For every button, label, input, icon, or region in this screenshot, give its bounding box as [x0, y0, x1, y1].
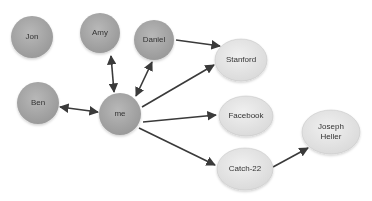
edge-me-daniel	[136, 62, 152, 96]
node-stanford[interactable]: Stanford	[215, 39, 267, 81]
node-stanford-label: Stanford	[226, 55, 256, 64]
node-daniel-label: Daniel	[143, 35, 166, 44]
diagram-canvas: Jon Amy Daniel Ben me Stanford Facebook	[0, 0, 372, 201]
node-joseph-heller-label-line2: Heller	[321, 132, 342, 141]
node-jon-label: Jon	[26, 32, 39, 41]
edge-daniel-stanford	[176, 40, 220, 46]
node-facebook[interactable]: Facebook	[219, 96, 273, 136]
node-jon[interactable]: Jon	[11, 16, 53, 58]
node-amy-label: Amy	[92, 28, 108, 37]
social-graph-diagram: Jon Amy Daniel Ben me Stanford Facebook	[0, 0, 372, 201]
node-daniel[interactable]: Daniel	[134, 20, 174, 60]
node-joseph-heller-label-line1: Joseph	[318, 122, 344, 131]
node-ben-label: Ben	[31, 98, 45, 107]
node-me-label: me	[114, 109, 126, 118]
edge-me-facebook	[143, 115, 216, 122]
edge-catch22-joseph-heller	[273, 148, 308, 167]
node-facebook-label: Facebook	[228, 111, 264, 120]
node-me[interactable]: me	[99, 93, 141, 135]
node-ben[interactable]: Ben	[17, 82, 59, 124]
edge-me-ben	[60, 107, 98, 112]
node-amy[interactable]: Amy	[80, 13, 120, 53]
node-catch22[interactable]: Catch-22	[217, 148, 273, 190]
node-catch22-label: Catch-22	[229, 164, 262, 173]
node-joseph-heller[interactable]: Joseph Heller	[302, 110, 360, 154]
edge-me-stanford	[142, 65, 214, 107]
edges	[60, 40, 308, 167]
edge-me-catch22	[139, 128, 215, 165]
edge-me-amy	[111, 56, 114, 92]
